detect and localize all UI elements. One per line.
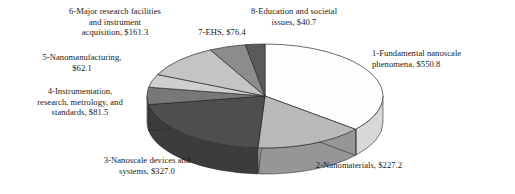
slice-label-2: 2-Nanomaterials, $227.2 (284, 160, 434, 171)
slice-label-1: 1-Fundamental nanoscale phenomena, $550.… (372, 48, 513, 69)
slice-label-3: 3-Nanoscale devices and systems, $327.0 (62, 155, 232, 176)
pie-chart-figure: 6-Major research facilities and instrume… (0, 0, 515, 194)
slice-label-8: 8-Education and societal issues, $40.7 (228, 6, 360, 27)
slice-label-4: 4-Instrumentation, research, metrology, … (2, 86, 158, 118)
slice-label-6: 6-Major research facilities and instrume… (30, 6, 200, 38)
slice-label-7: 7-EHS, $76.4 (176, 27, 268, 38)
slice-label-5: 5-Nanomanufacturing, $62.1 (6, 52, 158, 73)
